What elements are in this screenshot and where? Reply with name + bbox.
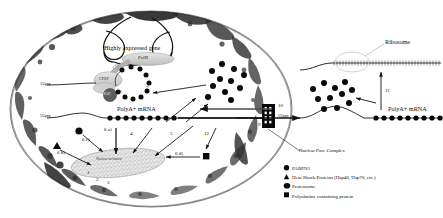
polyalanine-protein-marker	[203, 153, 209, 159]
step-6a-label: 6 a)	[104, 127, 112, 132]
step-7-label: 7	[146, 85, 149, 90]
cytoplasmic-mrna-label: PolyA+ mRNA	[388, 105, 427, 112]
step-12-label: 12	[204, 131, 209, 136]
nuclear-pore-complex	[262, 104, 275, 128]
cap-label-nascent: 5'Gppp	[40, 82, 50, 86]
arrow-cytoplasmic-pabpn1-loading	[356, 98, 376, 103]
cpsf-label: CPSF	[99, 76, 109, 81]
square-icon	[283, 191, 292, 201]
nuclear-inclusion-label: Nuclear inclusion	[96, 157, 121, 161]
legend-item-pabpn1: PABPN1	[283, 164, 441, 173]
step-6d-label: 6 d)	[175, 151, 183, 156]
legend-label-hsp: Heat Shock Proteins (Hsp40, Hsp70, etc.)	[292, 173, 376, 182]
ribosome-label: Ribosome	[385, 38, 410, 45]
legend-item-hsp: Heat Shock Proteins (Hsp40, Hsp70, etc.)	[283, 173, 441, 182]
legend-item-proteasome: Proteasome	[283, 182, 441, 191]
cap-label-mature: 5'Gppp	[40, 114, 50, 118]
legend-item-polyalanine: Polyalanine containing protein	[283, 192, 441, 201]
legend-label-polyalanine: Polyalanine containing protein	[292, 192, 353, 201]
free-pabpn1-monomer	[75, 127, 82, 134]
legend-label-pabpn1: PABPN1	[292, 164, 310, 173]
pap-label: PAP	[104, 92, 110, 96]
figure-canvas: Highly expressed gene PolII CTD CPSF PAP…	[0, 0, 443, 218]
nuclear-mrna-label: PolyA+ mRNA	[117, 105, 156, 112]
step-6c-label: 6 c)	[82, 137, 90, 142]
legend: PABPN1 Heat Shock Proteins (Hsp40, Hsp70…	[283, 164, 441, 201]
step-4-label: 4	[130, 131, 133, 136]
legend-label-proteasome: Proteasome	[292, 182, 315, 191]
cytoplasmic-pabpn1-pool	[310, 79, 355, 112]
step-2-label: 2	[96, 177, 99, 182]
step-5-label: 5	[170, 131, 173, 136]
step-8-label: 8	[119, 89, 122, 94]
cytoplasmic-mrna-ribosome-strand	[300, 44, 441, 72]
gene-label: Highly expressed gene	[104, 44, 160, 51]
polII-label: PolII	[138, 55, 148, 60]
step-9-label: 9	[258, 122, 261, 127]
step-10-label: 10	[278, 103, 283, 108]
cap-label-cytoplasmic: 5'Gppp	[278, 114, 288, 118]
step-1-label: 1	[87, 170, 90, 175]
step-6b-label: 6 b)	[57, 150, 65, 155]
step-3-label: 3	[107, 180, 110, 185]
npc-label: Nuclear Pore Complex	[299, 148, 345, 153]
step-11-label: 11	[385, 88, 390, 93]
